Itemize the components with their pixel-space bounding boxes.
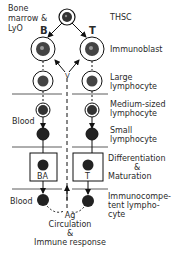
stage-medium-lymphocyte: Medium-sized lymphocyte bbox=[110, 100, 165, 118]
t-immunocompetent-cell bbox=[82, 195, 94, 207]
t-small-lymphocyte-cell bbox=[86, 128, 98, 140]
stage-large-lymphocyte: Large lymphocyte bbox=[110, 73, 157, 91]
b-immunoblast-cell bbox=[31, 37, 55, 61]
b-medium-lymphocyte-cell bbox=[36, 103, 50, 117]
b-large-lymphocyte-cell bbox=[33, 71, 53, 91]
v-label: V bbox=[65, 72, 70, 81]
b-immunocompetent-cell bbox=[37, 194, 49, 206]
stage-immunocompetent: Immunocompe- tent lympho- cyte bbox=[108, 192, 171, 219]
stage-immunoblast: Immunoblast bbox=[110, 45, 163, 54]
bottom-caption: Ag Circulation & Immune response bbox=[30, 211, 110, 247]
stage-thsc: THSC bbox=[110, 13, 132, 22]
b-small-lymphocyte-cell bbox=[37, 128, 49, 140]
stage-small-lymphocyte: Small lymphocyte bbox=[110, 126, 157, 144]
t-medium-lymphocyte-cell bbox=[85, 103, 99, 117]
blood-label-1: Blood bbox=[12, 117, 35, 126]
t-box-label: T bbox=[85, 172, 90, 181]
t-branch-label: T bbox=[89, 26, 96, 35]
blood-label-2: Blood bbox=[10, 197, 33, 206]
b-branch-label: B bbox=[40, 26, 48, 35]
ba-label: BA bbox=[37, 172, 48, 181]
stage-differentiation: Differentiation & Maturation bbox=[108, 154, 166, 181]
t-immunoblast-cell bbox=[80, 37, 104, 61]
thsc-cell bbox=[59, 9, 75, 25]
t-large-lymphocyte-cell bbox=[82, 71, 102, 91]
